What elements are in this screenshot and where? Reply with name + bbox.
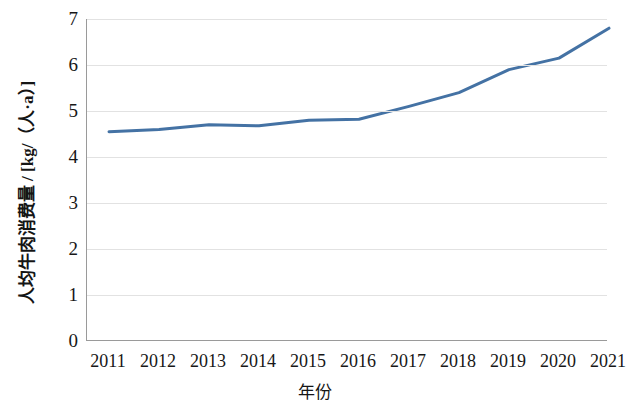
x-tick-label: 2011 bbox=[81, 350, 135, 372]
gridline bbox=[87, 65, 607, 66]
gridline bbox=[87, 111, 607, 112]
y-tick-label: 6 bbox=[52, 55, 78, 74]
gridline bbox=[87, 19, 607, 20]
plot-area bbox=[86, 19, 607, 341]
y-tick-label: 7 bbox=[52, 9, 78, 28]
x-tick-label: 2020 bbox=[531, 350, 585, 372]
x-axis-title: 年份 bbox=[0, 378, 630, 403]
x-axis-tick-labels: 2011201220132014201520162017201820192020… bbox=[0, 350, 630, 374]
gridline bbox=[87, 295, 607, 296]
y-tick-label: 4 bbox=[52, 147, 78, 166]
y-tick-label: 2 bbox=[52, 239, 78, 258]
y-axis-title: 人均牛肉消费量 / [kg/（人·a）] bbox=[13, 28, 38, 358]
x-tick-label: 2012 bbox=[131, 350, 185, 372]
y-tick-label: 1 bbox=[52, 285, 78, 304]
x-tick-label: 2019 bbox=[481, 350, 535, 372]
x-tick-label: 2016 bbox=[331, 350, 385, 372]
beef-consumption-line-chart: 人均牛肉消费量 / [kg/（人·a）] 01234567 2011201220… bbox=[0, 0, 630, 414]
series-line-beef-consumption bbox=[109, 28, 609, 132]
x-tick-label: 2013 bbox=[181, 350, 235, 372]
y-tick-label: 0 bbox=[52, 331, 78, 350]
x-tick-label: 2014 bbox=[231, 350, 285, 372]
y-tick-label: 5 bbox=[52, 101, 78, 120]
gridline bbox=[87, 249, 607, 250]
x-tick-label: 2015 bbox=[281, 350, 335, 372]
x-tick-label: 2021 bbox=[581, 350, 630, 372]
data-line-svg bbox=[87, 19, 608, 341]
y-tick-label: 3 bbox=[52, 193, 78, 212]
gridline bbox=[87, 157, 607, 158]
x-tick-label: 2018 bbox=[431, 350, 485, 372]
x-tick-label: 2017 bbox=[381, 350, 435, 372]
gridline bbox=[87, 203, 607, 204]
